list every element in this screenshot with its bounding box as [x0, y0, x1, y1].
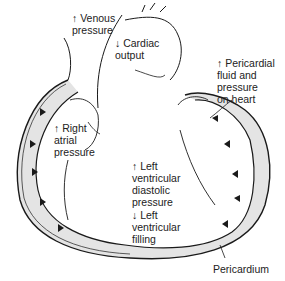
down-arrow-icon: ↓	[132, 209, 137, 221]
label-lv-filling: ↓ Left ventricular filling	[132, 209, 180, 245]
label-cardiac-output: ↓ Cardiac output	[115, 37, 159, 61]
tamponade-diagram: ↑ Venous pressure ↓ Cardiac output ↑ Per…	[0, 0, 285, 281]
label-pericardium: Pericardium	[213, 263, 269, 275]
up-arrow-icon: ↑	[54, 122, 59, 134]
label-right-atrial-pressure: ↑ Right atrial pressure	[54, 122, 95, 158]
label-lv-diastolic-pressure: ↑ Left ventricular diastolic pressure	[132, 160, 180, 208]
down-arrow-icon: ↓	[115, 37, 120, 49]
label-venous-pressure: ↑ Venous pressure	[72, 12, 115, 36]
label-pericardial-fluid: ↑ Pericardial fluid and pressure on hear…	[217, 57, 275, 105]
up-arrow-icon: ↑	[217, 57, 222, 69]
vena-cava	[64, 38, 71, 80]
up-arrow-icon: ↑	[132, 160, 137, 172]
up-arrow-icon: ↑	[72, 12, 77, 24]
